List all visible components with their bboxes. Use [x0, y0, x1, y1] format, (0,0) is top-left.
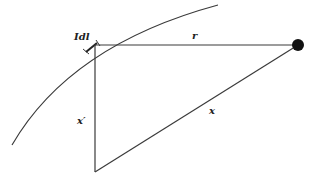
biot-savart-diagram: Idl r x′ x	[0, 0, 313, 183]
label-current-element: Idl	[73, 31, 90, 42]
label-r: r	[192, 30, 198, 41]
x-vector-line	[95, 45, 298, 172]
label-x-prime: x′	[76, 115, 86, 126]
field-point-dot	[292, 39, 304, 51]
wire-curve	[12, 5, 218, 145]
label-x: x	[208, 105, 216, 116]
